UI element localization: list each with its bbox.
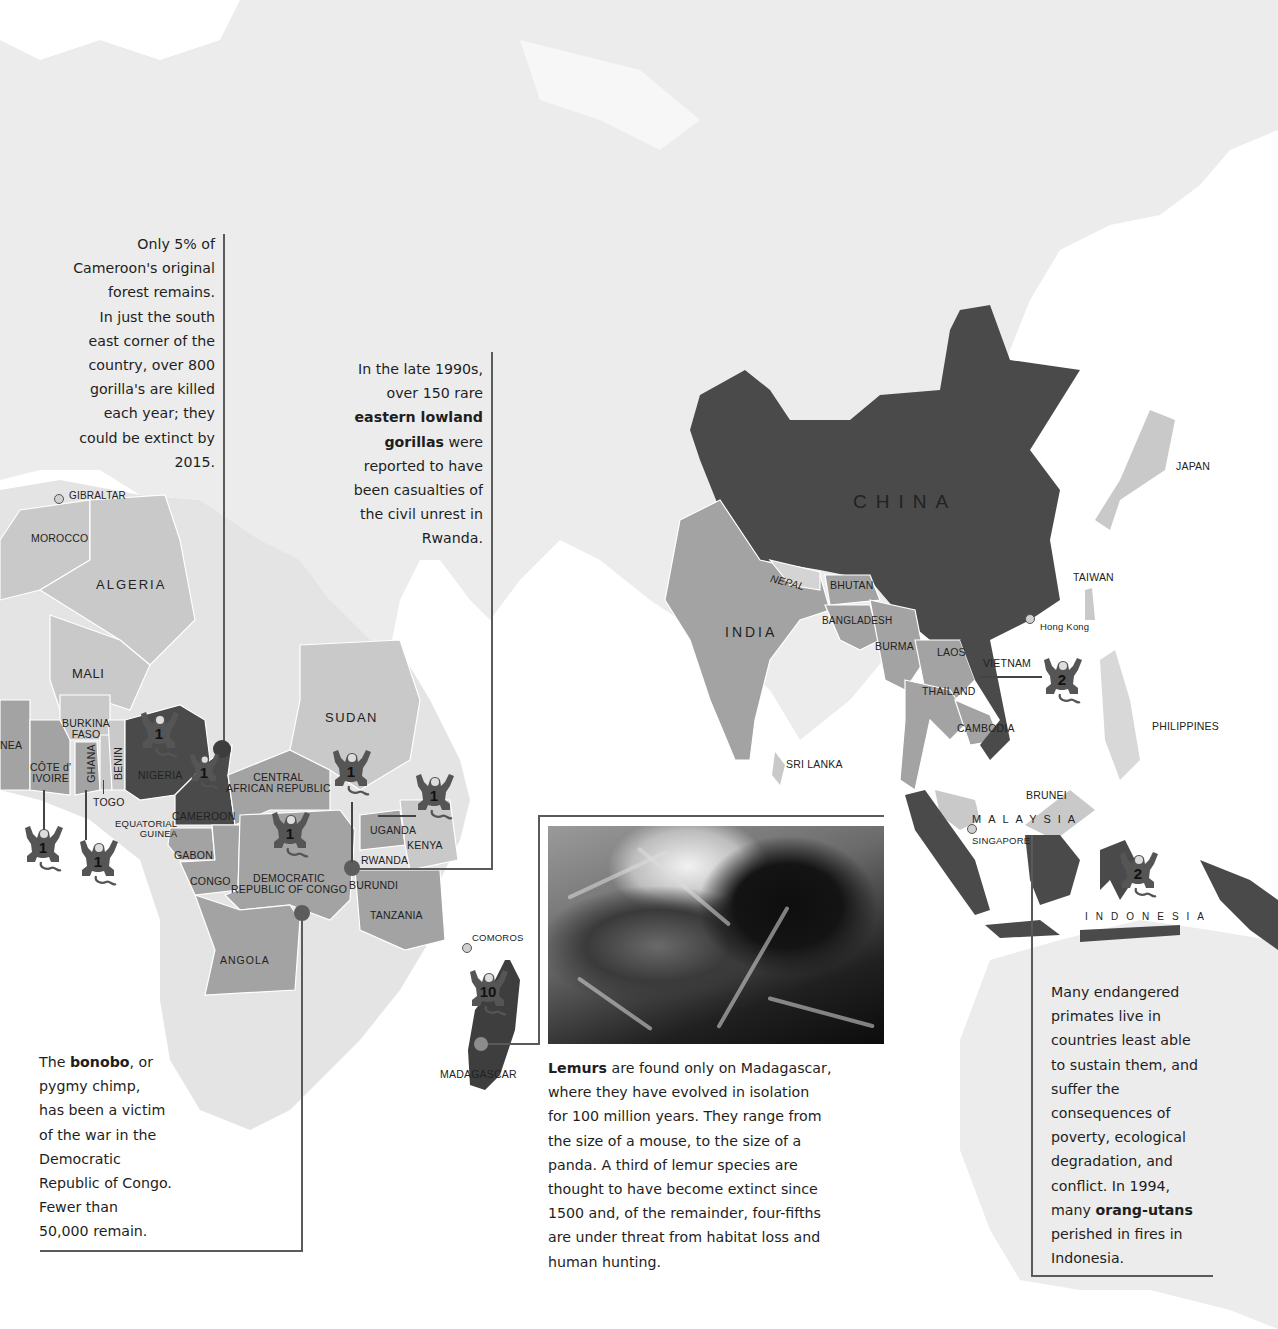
marker-line-togo [103, 780, 104, 794]
callout-line: gorilla's are killed [40, 377, 215, 401]
callout-line: each year; they [40, 401, 215, 425]
callout-lemurs: Lemurs are found only on Madagascar, whe… [548, 1056, 858, 1274]
primate-marker-kenya: 1 [412, 772, 456, 824]
label-central-african-republic: CENTRAL AFRICAN REPUBLIC [226, 772, 331, 794]
label-rwanda: RWANDA [361, 855, 408, 866]
callout-line: reported to have [300, 454, 483, 478]
label-laos: LAOS [937, 647, 966, 658]
label-cote-2: IVOIRE [32, 772, 69, 784]
callout-line: countries least able [1051, 1028, 1221, 1052]
callout-line: consequences of [1051, 1101, 1221, 1125]
label-benin: BENIN [113, 747, 124, 780]
primate-count: 1 [412, 787, 456, 804]
callout-dot-lemur [474, 1037, 488, 1051]
label-madagascar: MADAGASCAR [440, 1069, 517, 1080]
label-thailand: THAILAND [922, 686, 976, 697]
callout-emphasis: bonobo [70, 1054, 130, 1070]
lemur-photo [548, 826, 884, 1044]
label-gibraltar: GIBRALTAR [69, 491, 126, 502]
primate-marker-ghana: 1 [76, 838, 120, 890]
label-vietnam: VIETNAM [983, 658, 1031, 669]
label-gabon: GABON [174, 850, 213, 861]
callout-line: Many endangered [1051, 980, 1221, 1004]
callout-line: of the war in the [39, 1123, 279, 1147]
label-bhutan: BHUTAN [830, 580, 874, 591]
label-angola: ANGOLA [220, 955, 270, 966]
photo-leaf [567, 850, 668, 900]
primate-marker-vietnam: 2 [1040, 656, 1084, 708]
gibraltar-marker [54, 494, 64, 504]
photo-leaf [577, 976, 653, 1031]
primate-marker-nigeria: 1 [137, 710, 181, 762]
label-cote-divoire: CÔTE d' IVOIRE [30, 762, 71, 784]
label-india: INDIA [725, 625, 777, 640]
marker-line-rwanda [351, 802, 353, 862]
callout-line: east corner of the [40, 329, 215, 353]
callout-line: 2015. [40, 450, 215, 474]
label-drc: DEMOCRATIC REPUBLIC OF CONGO [231, 873, 347, 895]
callout-line: for 100 million years. They range from [548, 1104, 858, 1128]
callout-line: Democratic [39, 1147, 279, 1171]
primate-count: 1 [268, 825, 312, 842]
label-hong-kong: Hong Kong [1040, 622, 1089, 632]
label-japan: JAPAN [1176, 461, 1210, 472]
callout-line: Cameroon's original [40, 256, 215, 280]
callout-emphasis: eastern lowland [355, 409, 484, 425]
label-burundi: BURUNDI [349, 880, 398, 891]
callout-line: has been a victim [39, 1098, 279, 1122]
callout-line-rwanda [491, 352, 493, 870]
callout-emphasis: orang-utans [1095, 1202, 1192, 1218]
callout-rwanda: In the late 1990s, over 150 rare eastern… [300, 357, 483, 551]
borneo-shape [1025, 835, 1080, 905]
callout-line: conflict. In 1994, [1051, 1174, 1221, 1198]
label-burkina-faso: BURKINA FASO [62, 718, 110, 740]
primate-count: 1 [76, 853, 120, 870]
callout-line: the civil unrest in [300, 502, 483, 526]
callout-line: suffer the [1051, 1077, 1221, 1101]
callout-line: are found only on Madagascar, [607, 1060, 831, 1076]
callout-line: 1500 and, of the remainder, four-fifths [548, 1201, 858, 1225]
label-burkina-2: FASO [72, 728, 101, 740]
callout-emphasis: Lemurs [548, 1060, 607, 1076]
callout-line: were [444, 434, 483, 450]
primate-marker-cameroon: 1 [186, 752, 222, 792]
callout-bonobo: The bonobo, or pygmy chimp, has been a v… [39, 1050, 279, 1244]
label-eq-guinea-2: GUINEA [140, 828, 178, 839]
label-malaysia: MALAYSIA [972, 814, 1082, 826]
callout-line: In the late 1990s, [300, 357, 483, 381]
callout-line: forest remains. [40, 280, 215, 304]
label-drc-2: REPUBLIC OF CONGO [231, 883, 347, 895]
callout-line: country, over 800 [40, 353, 215, 377]
label-cameroon: CAMEROON [172, 811, 235, 822]
callout-line-indonesia [1031, 835, 1033, 1277]
label-indonesia: INDONESIA [1085, 912, 1212, 923]
label-togo: TOGO [93, 797, 125, 808]
primate-count: 10 [466, 983, 510, 1000]
hong-kong-marker [1025, 614, 1035, 624]
callout-line: thought to have become extinct since [548, 1177, 858, 1201]
callout-line: panda. A third of lemur species are [548, 1153, 858, 1177]
primate-marker-drc: 1 [268, 810, 312, 862]
label-comoros: COMOROS [472, 933, 524, 943]
primate-marker-indonesia: 2 [1116, 850, 1160, 902]
callout-line: The [39, 1054, 70, 1070]
callout-line-rwanda-h [352, 868, 493, 870]
callout-line: over 150 rare [300, 381, 483, 405]
label-singapore: SINGAPORE [972, 836, 1030, 846]
label-uganda: UGANDA [370, 825, 416, 836]
label-mali: MALI [72, 667, 104, 681]
callout-line: Indonesia. [1051, 1246, 1221, 1270]
primate-count: 1 [137, 725, 181, 742]
primate-count: 1 [21, 839, 65, 856]
callout-dot-bonobo [294, 905, 310, 921]
callout-line: could be extinct by [40, 426, 215, 450]
callout-line: Rwanda. [300, 526, 483, 550]
callout-cameroon: Only 5% of Cameroon's original forest re… [40, 232, 215, 474]
callout-line-cameroon [223, 234, 225, 750]
callout-line: pygmy chimp, [39, 1074, 279, 1098]
callout-line: 50,000 remain. [39, 1219, 279, 1243]
label-cambodia: CAMBODIA [957, 723, 1015, 734]
label-kenya: KENYA [407, 840, 443, 851]
label-guinea-partial: NEA [0, 740, 22, 751]
callout-line: human hunting. [548, 1250, 858, 1274]
